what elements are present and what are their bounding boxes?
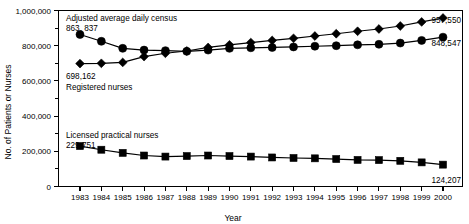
x-tick-label: 1995	[327, 193, 345, 202]
x-tick-label: 1999	[413, 193, 431, 202]
x-tick-label: 1992	[263, 193, 281, 202]
annotation-census-end-value: 848,547	[431, 39, 461, 48]
data-point-marker-square	[375, 157, 382, 164]
x-tick-label: 1993	[285, 193, 303, 202]
chart-background	[0, 0, 469, 224]
x-tick-label: 2000	[434, 193, 452, 202]
data-point-marker-circle	[354, 41, 362, 49]
annotation-rn-start-value: 698,162	[66, 72, 96, 81]
y-tick-label: 400,000	[22, 112, 51, 121]
x-tick-label: 1987	[157, 193, 175, 202]
data-point-marker-square	[247, 153, 254, 160]
data-point-marker-square	[333, 156, 340, 163]
y-tick-label: 800,000	[22, 42, 51, 51]
data-point-marker-square	[440, 161, 447, 168]
x-tick-label: 1983	[71, 193, 89, 202]
data-point-marker-square	[354, 156, 361, 163]
data-point-marker-square	[290, 154, 297, 161]
x-tick-label: 1985	[114, 193, 132, 202]
x-tick-label: 1990	[221, 193, 239, 202]
data-point-marker-circle	[375, 40, 383, 48]
x-axis-title: Year	[224, 213, 241, 223]
chart-figure: 0200,000400,000600,000800,0001,000,000 1…	[0, 0, 469, 224]
data-point-marker-square	[98, 146, 105, 153]
data-point-marker-circle	[290, 43, 298, 51]
data-point-marker-square	[418, 159, 425, 166]
y-tick-label: 600,000	[22, 77, 51, 86]
data-point-marker-square	[162, 153, 169, 160]
annotation-rn-end-value: 957,550	[431, 16, 461, 25]
annotation-lpn-end-value: 124,207	[431, 176, 461, 185]
data-point-marker-circle	[396, 39, 404, 47]
y-tick-label: 200,000	[22, 147, 51, 156]
data-point-marker-square	[397, 157, 404, 164]
x-tick-label: 1996	[349, 193, 367, 202]
x-tick-label: 1988	[178, 193, 196, 202]
y-tick-label: 1,000,000	[15, 7, 51, 16]
data-point-marker-circle	[311, 42, 319, 50]
data-point-marker-circle	[332, 42, 340, 50]
data-point-marker-circle	[97, 37, 105, 45]
data-point-marker-square	[119, 149, 126, 156]
data-point-marker-square	[311, 155, 318, 162]
annotation-census-start-value: 863, 837	[66, 24, 98, 33]
annotation-census-label: Adjusted average daily census	[66, 14, 177, 23]
data-point-marker-circle	[119, 44, 127, 52]
x-tick-label: 1989	[199, 193, 217, 202]
line-chart-canvas: 0200,000400,000600,000800,0001,000,000 1…	[0, 0, 469, 224]
y-axis-title: No. of Patients or Nurses	[3, 65, 13, 160]
annotation-lpn-label: Licensed practical nurses	[66, 131, 158, 140]
x-tick-label: 1991	[242, 193, 260, 202]
data-point-marker-circle	[418, 36, 426, 44]
x-tick-label: 1998	[391, 193, 409, 202]
data-point-marker-square	[226, 153, 233, 160]
x-tick-label: 1986	[135, 193, 153, 202]
data-point-marker-square	[183, 153, 190, 160]
y-tick-label: 0	[47, 183, 52, 192]
x-tick-label: 1994	[306, 193, 324, 202]
data-point-marker-square	[141, 152, 148, 159]
data-point-marker-square	[269, 154, 276, 161]
annotation-rn-label: Registered nurses	[66, 83, 132, 92]
x-tick-label: 1984	[92, 193, 110, 202]
x-tick-label: 1997	[370, 193, 388, 202]
annotation-lpn-start-value: 229,751	[66, 141, 96, 150]
data-point-marker-square	[205, 152, 212, 159]
